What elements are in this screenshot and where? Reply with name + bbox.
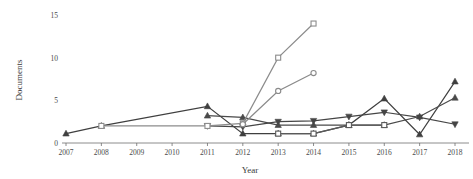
series-line [101,24,313,126]
data-point-marker [311,70,316,75]
data-point-marker [452,122,458,128]
data-point-marker [240,122,245,127]
data-point-marker [276,55,281,60]
x-tick-2013: 2013 [271,148,286,157]
x-tick-2011: 2011 [200,148,215,157]
x-tick-2010: 2010 [165,148,180,157]
x-tick-2012: 2012 [235,148,250,157]
data-point-marker [99,123,104,128]
data-point-marker [276,131,281,136]
series-5 [240,70,316,126]
x-tick-2017: 2017 [412,148,427,157]
chart-canvas: 051015 200720082009201020112012201320142… [0,0,473,179]
x-tick-2007: 2007 [59,148,74,157]
y-tick-15: 15 [51,11,59,20]
x-tick-2009: 2009 [129,148,144,157]
x-tick-2008: 2008 [94,148,109,157]
data-point-marker [381,95,387,101]
y-axis-tick-labels: 051015 [51,11,59,148]
x-tick-2016: 2016 [377,148,392,157]
y-tick-5: 5 [54,96,58,105]
data-point-marker [311,131,316,136]
data-point-marker [311,21,316,26]
series-line [243,73,314,124]
data-point-marker [205,123,210,128]
data-point-marker [346,123,351,128]
x-axis-title: Year [242,165,259,175]
x-tick-2014: 2014 [306,148,321,157]
x-axis-tick-labels: 2007200820092010201120122013201420152016… [59,148,463,157]
data-point-marker [204,112,210,118]
data-point-marker [452,78,458,84]
data-point-marker [382,123,387,128]
x-tick-2018: 2018 [448,148,463,157]
x-tick-2015: 2015 [341,148,356,157]
data-point-marker [452,94,458,100]
line-chart: 051015 200720082009201020112012201320142… [0,0,473,179]
data-series-layer [63,21,458,137]
y-axis-title: Documents [14,59,24,100]
y-tick-10: 10 [51,54,59,63]
data-point-marker [276,88,281,93]
series-line [278,125,384,134]
data-point-marker [204,103,210,109]
axis-lines [62,143,469,146]
y-tick-0: 0 [54,139,58,148]
